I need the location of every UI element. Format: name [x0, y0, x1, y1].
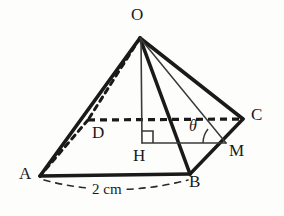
figure-canvas [0, 0, 284, 216]
vertex-label-H: H [133, 147, 145, 164]
geometry-figure: O A B C D H M θ 2 cm [0, 0, 284, 216]
edge-C-D [88, 119, 243, 120]
theta-angle-arc [203, 129, 208, 143]
vertex-label-A: A [19, 165, 31, 182]
right-angle-marker [142, 131, 153, 143]
edge-O-M [140, 38, 226, 143]
vertex-label-D: D [92, 124, 104, 141]
vertex-label-B: B [189, 173, 200, 190]
edge-A-B [40, 174, 190, 176]
edge-O-A [40, 38, 140, 176]
vertex-label-C: C [251, 106, 262, 123]
angle-label-theta: θ [189, 118, 197, 134]
measurement-label-2cm: 2 cm [90, 182, 124, 197]
edge-O-H [141, 38, 142, 143]
vertex-label-O: O [131, 6, 143, 23]
vertex-label-M: M [229, 142, 244, 159]
